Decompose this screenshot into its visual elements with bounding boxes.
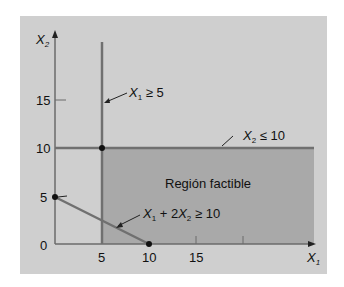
label-c1: X1 ≥ 5	[128, 85, 164, 102]
region-label: Región factible	[165, 176, 251, 191]
y-tick-label-15: 15	[36, 93, 50, 108]
x-tick-label-15: 15	[189, 250, 203, 265]
point-10-0	[146, 241, 152, 247]
y-tick-label-5: 5	[40, 190, 47, 205]
feasible-region-diagram: X2 X1 15 10 5 0 5 10 15 X1 ≥ 5 X2 ≤ 10 X…	[0, 0, 344, 287]
x-tick-label-10: 10	[142, 250, 156, 265]
point-0-5	[52, 194, 58, 200]
y-tick-label-0: 0	[40, 238, 47, 253]
y-tick-label-10: 10	[36, 141, 50, 156]
x-tick-label-5: 5	[98, 250, 105, 265]
point-5-10	[99, 145, 105, 151]
label-c2: X2 ≤ 10	[242, 128, 285, 145]
feasible-region	[102, 148, 314, 244]
